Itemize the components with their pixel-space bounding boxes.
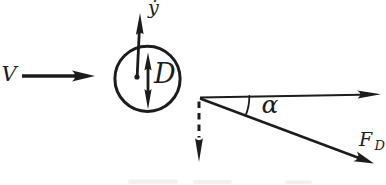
flow-velocity-arrow [22, 70, 95, 81]
diagram-canvas: V D ẏ [0, 0, 386, 185]
y-velocity-arrow-shaft [137, 33, 139, 76]
caption-smudge [128, 180, 178, 185]
diameter-label: D [153, 58, 176, 89]
drag-force-subscript: D [374, 138, 386, 153]
diameter-arrow [144, 53, 151, 110]
angle-arc [246, 96, 250, 115]
angle-label: α [262, 90, 279, 119]
y-velocity-arrow [136, 13, 144, 76]
downward-dashed-arrowhead [195, 138, 203, 162]
horizontal-reference-arrow-shaft [200, 95, 361, 98]
drag-force-label: F [358, 128, 373, 150]
cropped-caption-remnant [128, 180, 312, 185]
caption-smudge [193, 180, 232, 184]
downward-dashed-arrow [195, 102, 203, 163]
drag-force-arrow-shaft [200, 99, 359, 159]
cylinder-flow-diagram: V D ẏ [0, 0, 386, 185]
y-velocity-arrowhead [136, 13, 144, 35]
y-velocity-label: ẏ [147, 0, 159, 18]
flow-velocity-label: V [2, 62, 19, 86]
drag-force-arrow [200, 99, 374, 164]
horizontal-reference-arrow [200, 91, 381, 99]
flow-velocity-arrowhead [72, 70, 95, 81]
horizontal-reference-arrowhead [357, 91, 381, 99]
diameter-arrowhead-up [144, 53, 151, 71]
diameter-arrowhead-down [144, 89, 151, 110]
caption-smudge [285, 181, 312, 185]
